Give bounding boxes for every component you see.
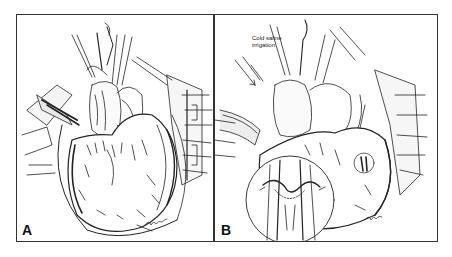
panel-a-illustration bbox=[17, 15, 213, 241]
heart-illustration-a bbox=[17, 15, 213, 241]
irrigation-annotation: Cold saline irrigation bbox=[252, 35, 282, 49]
heart-illustration-b bbox=[215, 15, 438, 241]
panel-label-b: B bbox=[221, 222, 231, 238]
annotation-line-2: irrigation bbox=[252, 42, 282, 49]
panel-label-a: A bbox=[22, 222, 32, 238]
annotation-line-1: Cold saline bbox=[252, 35, 282, 42]
panel-b-illustration bbox=[215, 15, 438, 241]
